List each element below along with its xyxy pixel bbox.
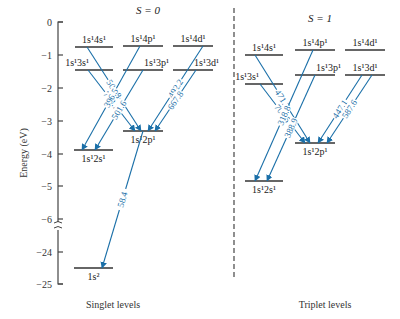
wavelength-label: 58.4 [115,190,129,208]
axis-tick-label: −2 [41,83,52,94]
level-label-t2s: 1s¹2s¹ [252,184,276,195]
singlet-title: S = 0 [136,4,160,16]
level-label-t3p: 1s¹3p¹ [316,62,341,73]
axis-tick-label: −6 [41,214,52,225]
level-label-t4p: 1s¹4p¹ [303,37,328,48]
level-label-s4s: 1s¹4s¹ [82,34,106,45]
level-label-t3d: 1s¹3d¹ [353,62,378,73]
axis-tick-label: −1 [41,50,52,61]
level-label-s3d: 1s¹3d¹ [194,57,219,68]
singlet-footer: Singlet levels [86,299,140,310]
level-label-s1s: 1s² [88,271,100,282]
axis-ticks: 0−1−2−3−4−5−6−24−25 [36,17,63,290]
helium-energy-level-diagram: 0−1−2−3−4−5−6−24−25 Energy (eV) S = 0 S … [0,0,400,319]
singlet-levels-group: 1s¹4s¹1s¹4p¹1s¹4d¹1s¹3s¹1s¹3p¹1s¹3d¹1s¹2… [65,33,219,282]
axis-tick-label: −4 [41,149,52,160]
axis-line-upper [58,22,63,222]
level-label-s3s: 1s¹3s¹ [65,57,89,68]
level-label-t2p: 1s¹2p¹ [303,146,328,157]
level-label-t4s: 1s¹4s¹ [252,42,276,53]
triplet-footer: Triplet levels [299,299,352,310]
axis-title: Energy (eV) [18,128,30,178]
level-label-s2p: 1s¹2p¹ [131,134,156,145]
axis-tick-label: −24 [36,247,52,258]
axis-line-lower [58,230,63,284]
axis-tick-label: 0 [47,17,52,28]
level-label-t3s: 1s¹3s¹ [235,71,259,82]
triplet-title: S = 1 [308,12,332,24]
level-label-t4d: 1s¹4d¹ [353,37,378,48]
energy-axis: 0−1−2−3−4−5−6−24−25 Energy (eV) [18,17,63,290]
axis-tick-label: −3 [41,116,52,127]
axis-tick-label: −5 [41,181,52,192]
level-label-s3p: 1s¹3p¹ [144,57,169,68]
level-label-s2s: 1s¹2s¹ [82,153,106,164]
level-label-s4d: 1s¹4d¹ [181,33,206,44]
axis-tick-label: −25 [36,279,52,290]
level-label-s4p: 1s¹4p¹ [131,33,156,44]
triplet-levels-group: 1s¹4s¹1s¹4p¹1s¹4d¹1s¹3s¹1s¹3p¹1s¹3d¹1s¹2… [235,37,385,195]
axis-break-icon [54,222,62,229]
